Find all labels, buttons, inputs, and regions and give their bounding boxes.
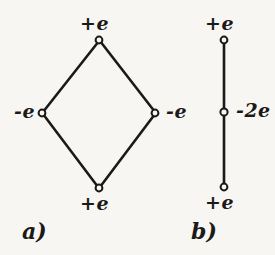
edge-a-right-top [100, 41, 155, 112]
charge-label-b-top: +e [205, 14, 234, 33]
figure-canvas: +e -e -e +e +e -2e +e a) b) [0, 0, 275, 255]
panel-b-group [220, 37, 227, 191]
panel-a-edges [43, 41, 155, 187]
node-b-bottom-charge [221, 184, 228, 191]
charge-label-a-bottom: +e [80, 194, 109, 213]
panel-a-group [39, 37, 159, 192]
charge-diagram-svg [0, 0, 275, 255]
node-b-middle-charge [220, 108, 227, 115]
edge-a-bottom-right [100, 114, 155, 187]
charge-label-b-bottom: +e [205, 193, 234, 212]
charge-label-a-left: -e [14, 102, 35, 121]
node-a-right-charge [152, 110, 159, 117]
edge-a-top-left [43, 41, 99, 112]
node-a-left-charge [39, 110, 46, 117]
node-b-top-charge [221, 37, 228, 44]
node-a-top-charge [96, 37, 103, 44]
charge-label-b-middle: -2e [236, 101, 271, 120]
panel-a-nodes [39, 37, 159, 192]
panel-caption-b: b) [191, 220, 217, 242]
node-a-bottom-charge [96, 185, 103, 192]
charge-label-a-right: -e [166, 102, 187, 121]
panel-caption-a: a) [22, 220, 47, 242]
charge-label-a-top: +e [80, 14, 109, 33]
edge-a-left-bottom [43, 114, 98, 187]
